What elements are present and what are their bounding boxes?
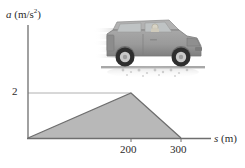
jeep-door-handle bbox=[150, 39, 157, 41]
jeep-illustration bbox=[93, 8, 213, 80]
jeep-front-wheel bbox=[172, 48, 191, 67]
x-axis-label-units: (m) bbox=[218, 132, 237, 144]
x-axis-label: s (m) bbox=[214, 133, 237, 144]
acceleration-position-figure: a (m/s2) s (m) 2 200 300 bbox=[0, 0, 245, 168]
jeep-hood bbox=[187, 38, 200, 46]
y-tick-label-2: 2 bbox=[12, 86, 18, 97]
x-tick-label-200: 200 bbox=[120, 144, 137, 155]
acceleration-area-fill bbox=[28, 93, 181, 138]
y-axis-label: a (m/s2) bbox=[6, 8, 41, 20]
vehicle-reflection bbox=[107, 66, 199, 78]
y-axis-label-units-close: ) bbox=[37, 8, 41, 20]
jeep-rear-window bbox=[117, 23, 141, 32]
y-axis-label-units-open: (m/s bbox=[12, 8, 34, 20]
jeep-spare-tire-panel bbox=[107, 35, 114, 51]
x-tick-label-300: 300 bbox=[170, 144, 187, 155]
jeep-rear-wheel bbox=[116, 48, 135, 67]
jeep-front-bumper bbox=[195, 47, 202, 51]
